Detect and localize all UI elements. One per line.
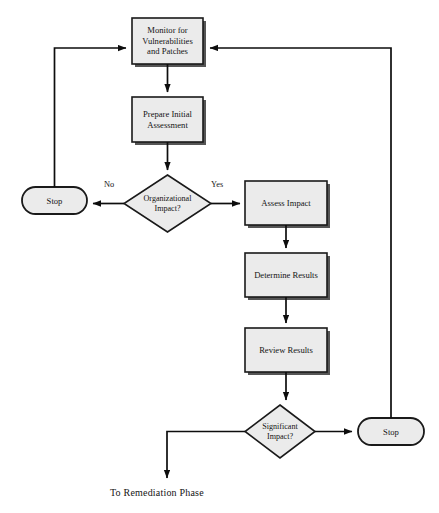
node-stop-left <box>22 187 87 214</box>
node-monitor <box>132 18 203 64</box>
node-organizational-impact <box>124 175 211 232</box>
edge-stop-left-loop-to-monitor <box>55 48 127 187</box>
remediation-phase-caption: To Remediation Phase <box>110 487 204 498</box>
node-significant-impact <box>245 405 315 458</box>
edge-significant-to-remediation <box>167 432 245 479</box>
edge-label-no: No <box>104 180 114 189</box>
node-prepare <box>132 97 203 142</box>
node-stop-right <box>358 418 424 445</box>
flowchart-canvas: Monitor for Vulnerabilities and Patches … <box>0 0 439 513</box>
node-assess <box>245 181 327 225</box>
node-determine <box>245 253 327 297</box>
flowchart-graphics <box>0 0 439 513</box>
node-review <box>245 328 327 372</box>
terminator-nodes <box>22 187 424 445</box>
edge-label-yes: Yes <box>211 180 223 189</box>
connectors <box>55 48 392 478</box>
